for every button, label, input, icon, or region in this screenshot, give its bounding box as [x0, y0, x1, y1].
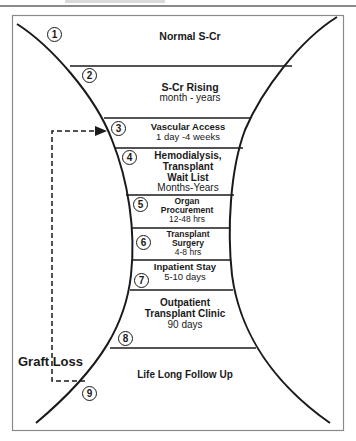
- stage-8-duration: 90 days: [120, 320, 250, 331]
- stage-9-title: Life Long Follow Up: [110, 370, 260, 381]
- stage-4-label: Hemodialysis, Transplant Wait List Month…: [138, 151, 238, 194]
- stage-number-1: 1: [47, 27, 62, 42]
- stage-3-duration: 1 day -4 weeks: [128, 132, 248, 142]
- stage-3-label: Vascular Access 1 day -4 weeks: [128, 122, 248, 143]
- stage-1-label: Normal S-Cr: [120, 31, 260, 42]
- graft-loss-label: Graft Loss: [18, 354, 83, 369]
- graft-loss-arrowhead-icon: [95, 126, 107, 136]
- stage-7-label: Inpatient Stay 5-10 days: [138, 262, 232, 283]
- stage-1-title: Normal S-Cr: [120, 31, 260, 42]
- stage-7-duration: 5-10 days: [138, 272, 232, 282]
- stage-6-duration: 4-8 hrs: [148, 248, 228, 257]
- stage-2-label: S-Cr Rising month - years: [120, 82, 260, 104]
- stage-4-duration: Months-Years: [138, 183, 238, 194]
- stage-number-4: 4: [122, 150, 137, 165]
- stage-5-duration: 12-48 hrs: [146, 215, 228, 224]
- stage-number-2: 2: [82, 68, 97, 83]
- stage-6-label: Transplant Surgery 4-8 hrs: [148, 230, 228, 258]
- stage-number-3: 3: [111, 121, 126, 136]
- stage-5-label: Organ Procurement 12-48 hrs: [146, 197, 228, 225]
- stage-number-8: 8: [118, 331, 133, 346]
- stage-2-duration: month - years: [120, 93, 260, 104]
- stage-4-title-line-2: Transplant: [138, 162, 238, 173]
- graft-loss-dashed-path: [52, 131, 98, 381]
- stage-8-title-line-2: Transplant Clinic: [120, 309, 250, 320]
- stage-9-label: Life Long Follow Up: [110, 370, 260, 381]
- hourglass-right-curve: [230, 17, 337, 423]
- stage-number-9: 9: [82, 386, 97, 401]
- stage-8-label: Outpatient Transplant Clinic 90 days: [120, 298, 250, 330]
